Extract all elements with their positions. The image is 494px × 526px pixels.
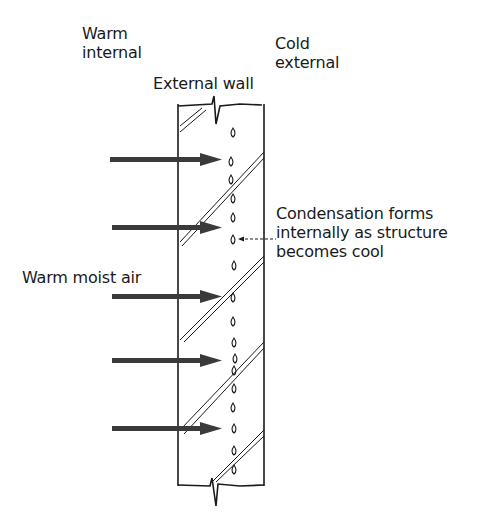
arrow-2 <box>112 221 222 234</box>
arrow-1 <box>110 153 222 166</box>
droplets <box>229 128 237 474</box>
wall-section-diagram <box>0 0 494 526</box>
arrow-5 <box>112 422 222 435</box>
arrow-3 <box>112 290 222 303</box>
leader-arrowhead <box>238 237 244 242</box>
arrow-4 <box>112 354 222 367</box>
warm-air-arrows <box>110 153 222 435</box>
